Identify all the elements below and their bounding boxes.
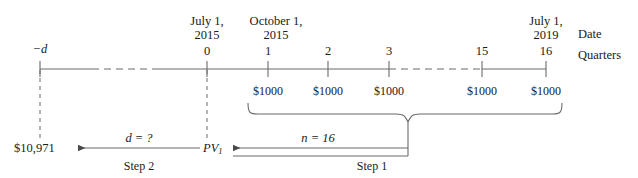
quarter-label-15: 15 bbox=[476, 45, 489, 58]
date-line2: 2015 bbox=[190, 28, 223, 42]
quarter-label-2: 2 bbox=[325, 45, 331, 58]
date-line2: 2015 bbox=[250, 28, 303, 42]
quarter-label-3: 3 bbox=[386, 45, 392, 58]
quarter-label-0: 0 bbox=[204, 45, 210, 58]
axis-label-quarters: Quarters bbox=[578, 49, 621, 62]
timeline-diagram: July 1, 2015 October 1, 2015 July 1, 201… bbox=[0, 0, 638, 178]
drop-lines bbox=[40, 70, 207, 140]
present-value-text: PV bbox=[203, 141, 218, 155]
date-line1: July 1, bbox=[529, 14, 562, 28]
present-value-label: PV1 bbox=[203, 142, 223, 156]
payments-brace bbox=[248, 103, 562, 122]
step1-value-label: n = 16 bbox=[301, 132, 334, 145]
date-label-quarter-0: July 1, 2015 bbox=[190, 14, 223, 42]
quarter-label-1: 1 bbox=[265, 45, 271, 58]
principal-value-label: $10,971 bbox=[14, 142, 55, 155]
payment-label-quarter-15: $1000 bbox=[467, 85, 497, 98]
date-line1: July 1, bbox=[190, 14, 223, 28]
payment-label-quarter-2: $1000 bbox=[313, 85, 343, 98]
date-line2: 2019 bbox=[529, 28, 562, 42]
step1-name-label: Step 1 bbox=[357, 160, 387, 173]
quarter-label-16: 16 bbox=[540, 45, 553, 58]
payment-label-quarter-16: $1000 bbox=[531, 85, 561, 98]
timeline-left-end-label: −d bbox=[33, 43, 48, 56]
payment-label-quarter-3: $1000 bbox=[374, 85, 404, 98]
step2-name-label: Step 2 bbox=[124, 160, 154, 173]
payment-label-quarter-1: $1000 bbox=[253, 85, 283, 98]
date-label-quarter-16: July 1, 2019 bbox=[529, 14, 562, 42]
date-label-quarter-1: October 1, 2015 bbox=[250, 14, 303, 42]
date-line1: October 1, bbox=[250, 14, 303, 28]
step2-value-label: d = ? bbox=[125, 132, 152, 145]
present-value-subscript: 1 bbox=[218, 146, 222, 156]
axis-label-date: Date bbox=[578, 28, 602, 41]
